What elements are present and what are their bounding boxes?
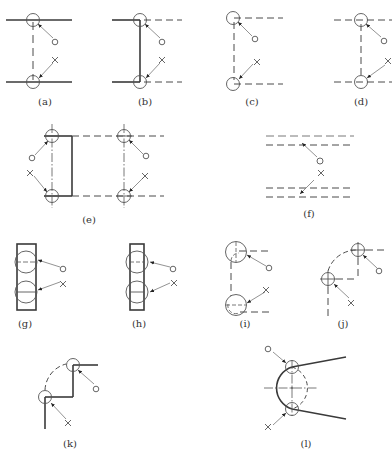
panel-f-drawing [266, 136, 354, 197]
panel-a-drawing [6, 14, 72, 89]
panel-e-drawing [27, 124, 164, 208]
caption-j: (j) [338, 318, 349, 329]
panel-h-drawing [126, 244, 177, 310]
caption-f: (f) [303, 208, 315, 219]
incorrect-mark-icon [52, 57, 58, 63]
panel-i-drawing [226, 242, 273, 316]
caption-g: (g) [18, 318, 32, 329]
caption-i: (i) [239, 318, 250, 329]
panel-l-drawing [264, 346, 346, 430]
caption-b: (b) [138, 96, 152, 107]
panel-j-drawing [320, 242, 388, 316]
panel-g-drawing [15, 244, 66, 310]
caption-e: (e) [82, 214, 96, 225]
panel-b-drawing [112, 14, 182, 89]
panel-d-drawing [334, 14, 392, 89]
caption-d: (d) [354, 96, 368, 107]
correct-mark-icon [52, 39, 58, 45]
drafting-conventions-diagram [0, 0, 392, 462]
caption-c: (c) [245, 96, 258, 107]
caption-a: (a) [38, 96, 52, 107]
panel-k-drawing [39, 359, 99, 430]
caption-h: (h) [132, 318, 146, 329]
caption-l: (l) [300, 438, 311, 449]
caption-k: (k) [63, 438, 77, 449]
panel-c-drawing [227, 12, 284, 91]
